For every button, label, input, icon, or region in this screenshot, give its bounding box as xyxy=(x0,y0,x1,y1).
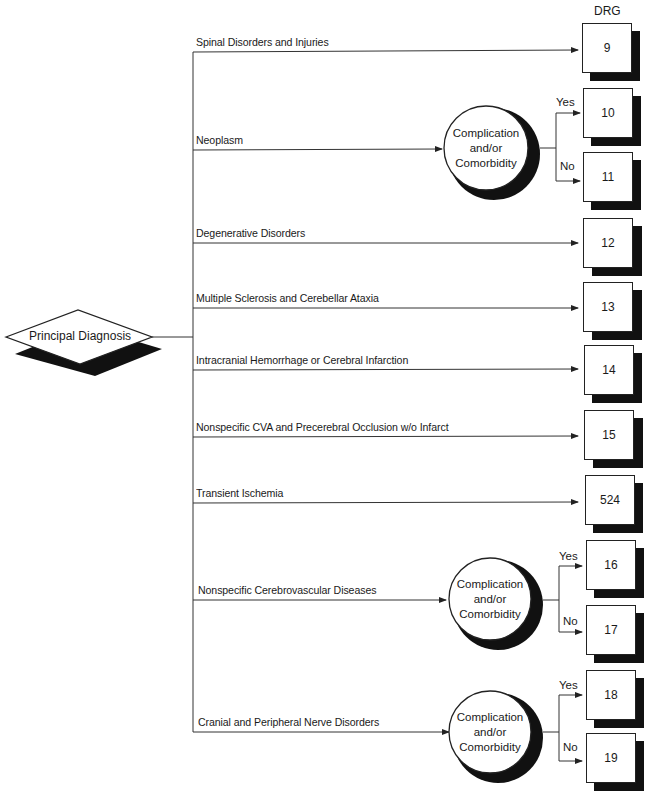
drg-box-19: 19 xyxy=(586,733,636,783)
decision-text-line: Complication xyxy=(450,710,530,725)
drg-box-12: 12 xyxy=(583,218,633,268)
drg-box-17: 17 xyxy=(586,605,636,655)
decision-text-cranial: Complication and/or Comorbidity xyxy=(450,710,530,755)
decision-text-line: Comorbidity xyxy=(450,740,530,755)
drg-box-14: 14 xyxy=(584,345,634,395)
no-label: No xyxy=(563,615,578,627)
diagram-connectors xyxy=(0,0,655,799)
branch-label-nonspecific-cva: Nonspecific CVA and Precerebral Occlusio… xyxy=(196,421,448,433)
principal-diagnosis-diamond xyxy=(6,310,162,376)
drg-box-524: 524 xyxy=(585,475,635,525)
drg-box-15: 15 xyxy=(584,410,634,460)
drg-box-11: 11 xyxy=(583,152,633,202)
drg-box-16: 16 xyxy=(586,540,636,590)
decision-text-line: and/or xyxy=(446,141,526,156)
branch-label-degenerative: Degenerative Disorders xyxy=(196,227,305,239)
decision-text-line: Comorbidity xyxy=(446,156,526,171)
drg-box-13: 13 xyxy=(583,282,633,332)
drg-box-18: 18 xyxy=(586,670,636,720)
branch-label-transient-ischemia: Transient Ischemia xyxy=(196,487,283,499)
decision-text-line: Complication xyxy=(446,126,526,141)
branch-label-multiple-sclerosis: Multiple Sclerosis and Cerebellar Ataxia xyxy=(196,292,379,304)
decision-text-neoplasm: Complication and/or Comorbidity xyxy=(446,126,526,171)
yes-label: Yes xyxy=(559,679,578,691)
decision-text-line: and/or xyxy=(450,592,530,607)
decision-text-cerebrovascular: Complication and/or Comorbidity xyxy=(450,577,530,622)
drg-column-header: DRG xyxy=(594,4,621,18)
no-label: No xyxy=(560,160,575,172)
decision-text-line: Comorbidity xyxy=(450,607,530,622)
drg-box-10: 10 xyxy=(583,88,633,138)
branch-label-nonspecific-cerebrovascular: Nonspecific Cerebrovascular Diseases xyxy=(198,584,376,596)
branch-label-intracranial: Intracranial Hemorrhage or Cerebral Infa… xyxy=(196,354,408,366)
no-label: No xyxy=(563,741,578,753)
yes-label: Yes xyxy=(556,96,575,108)
decision-text-line: and/or xyxy=(450,725,530,740)
principal-diagnosis-label: Principal Diagnosis xyxy=(29,329,131,343)
drg-box-9: 9 xyxy=(582,23,632,73)
yes-label: Yes xyxy=(559,550,578,562)
decision-text-line: Complication xyxy=(450,577,530,592)
branch-label-cranial-nerve: Cranial and Peripheral Nerve Disorders xyxy=(198,716,379,728)
branch-label-spinal: Spinal Disorders and Injuries xyxy=(196,36,329,48)
branch-label-neoplasm: Neoplasm xyxy=(196,134,243,146)
